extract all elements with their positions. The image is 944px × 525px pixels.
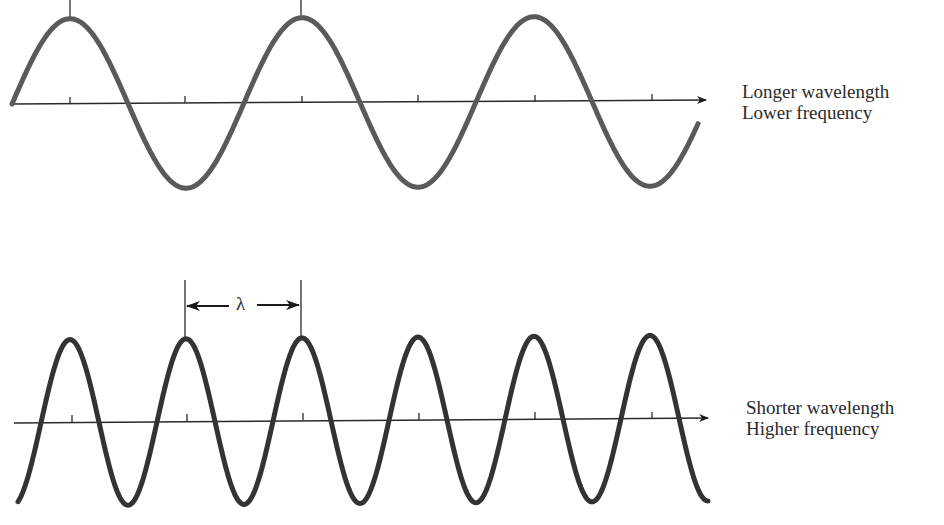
bottom-label-wavelength: Shorter wavelength [746,397,894,418]
top-wave-panel [12,0,706,188]
lambda-symbol: λ [236,293,245,315]
bottom-axis [14,418,708,423]
bottom-label-frequency: Higher frequency [746,418,894,439]
top-label-frequency: Lower frequency [742,102,889,123]
bottom-wave-panel [14,280,708,505]
top-wave-label: Longer wavelength Lower frequency [742,81,889,123]
bottom-wave-label: Shorter wavelength Higher frequency [746,397,894,439]
wave-diagram [0,0,944,525]
top-peak-markers [70,0,301,19]
top-label-wavelength: Longer wavelength [742,81,889,102]
